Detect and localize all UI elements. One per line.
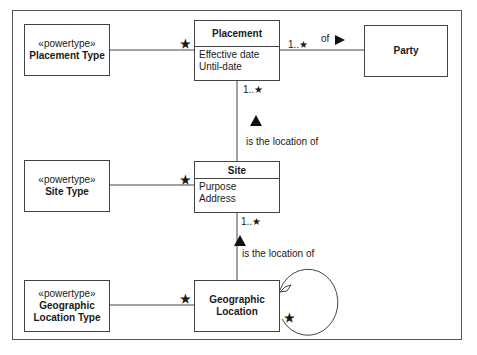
class-name-line1: Geographic: [209, 294, 265, 306]
association-label-site-placement: is the location of: [246, 136, 318, 147]
class-geographic-location[interactable]: Geographic Location: [194, 280, 280, 332]
multiplicity-geo-site: 1..★: [241, 216, 261, 227]
class-site-type[interactable]: «powertype» Site Type: [24, 160, 110, 212]
class-name-line1: Geographic: [39, 300, 95, 312]
class-site[interactable]: Site Purpose Address: [194, 161, 280, 213]
multiplicity-geo-type: ★: [180, 293, 191, 305]
multiplicity-geo-self: ★: [284, 312, 295, 324]
stereotype-label: «powertype»: [38, 174, 95, 186]
arrow-up-icon: [250, 115, 262, 126]
class-name: Placement: [195, 21, 279, 47]
class-name-line2: Location Type: [33, 312, 100, 324]
class-name-line2: Location: [216, 306, 258, 318]
class-name: Placement Type: [29, 50, 104, 62]
association-label-geo-site: is the location of: [242, 248, 314, 259]
arrow-up-icon: [234, 235, 246, 246]
stereotype-label: «powertype»: [38, 38, 95, 50]
association-label-of: of: [321, 33, 329, 44]
class-name: Party: [393, 45, 418, 57]
class-geographic-location-type[interactable]: «powertype» Geographic Location Type: [24, 280, 110, 332]
attribute: Address: [199, 193, 275, 205]
attribute-list: Purpose Address: [195, 179, 279, 207]
arrow-right-icon: [335, 35, 345, 45]
class-name: Site Type: [45, 186, 89, 198]
attribute: Until-date: [199, 61, 275, 73]
class-party[interactable]: Party: [364, 25, 448, 77]
class-placement[interactable]: Placement Effective date Until-date: [194, 20, 280, 81]
multiplicity-placement-party: 1..★: [288, 39, 308, 50]
attribute: Purpose: [199, 181, 275, 193]
class-placement-type[interactable]: «powertype» Placement Type: [24, 24, 110, 76]
multiplicity-site-placement: 1..★: [243, 84, 263, 95]
multiplicity-site-type: ★: [180, 174, 191, 186]
multiplicity-placement-type: ★: [180, 38, 191, 50]
class-name: Site: [195, 162, 279, 179]
attribute-list: Effective date Until-date: [195, 47, 279, 75]
attribute: Effective date: [199, 49, 275, 61]
stereotype-label: «powertype»: [38, 288, 95, 300]
